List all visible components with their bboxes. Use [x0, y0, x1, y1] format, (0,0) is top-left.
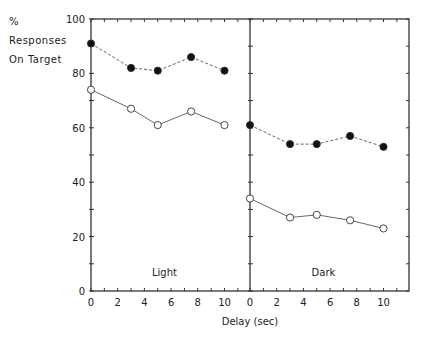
- x-tick-label: 0: [88, 297, 94, 308]
- filled-circle-marker: [347, 132, 354, 139]
- x-tick-label: 4: [141, 297, 147, 308]
- x-tick-label: 8: [354, 297, 360, 308]
- chart: 02040608010002468100246810Delay (sec)Lig…: [0, 0, 424, 339]
- open-circle-marker: [246, 195, 253, 202]
- y-tick-label: 100: [66, 14, 85, 25]
- y-tick-label: 60: [72, 123, 85, 134]
- filled-circle-marker: [221, 67, 228, 74]
- x-axis-label: Delay (sec): [222, 316, 279, 327]
- open-circle-marker: [154, 121, 161, 128]
- open-circle-marker: [127, 105, 134, 112]
- filled-circle-marker: [286, 141, 293, 148]
- filled-circle-marker: [188, 53, 195, 60]
- open-circle-marker: [221, 121, 228, 128]
- x-tick-label: 6: [168, 297, 174, 308]
- series-line-open: [91, 90, 225, 125]
- filled-circle-marker: [127, 64, 134, 71]
- panel-label-dark: Dark: [312, 267, 336, 278]
- panel-label-light: Light: [152, 267, 177, 278]
- filled-circle-marker: [87, 40, 94, 47]
- x-tick-label: 8: [195, 297, 201, 308]
- open-circle-marker: [87, 86, 94, 93]
- x-tick-label: 0: [247, 297, 253, 308]
- filled-circle-marker: [380, 143, 387, 150]
- open-circle-marker: [347, 217, 354, 224]
- filled-circle-marker: [313, 141, 320, 148]
- open-circle-marker: [286, 214, 293, 221]
- x-tick-label: 6: [327, 297, 333, 308]
- x-tick-label: 4: [300, 297, 306, 308]
- y-tick-label: 40: [72, 177, 85, 188]
- y-tick-label: 80: [72, 68, 85, 79]
- x-tick-label: 10: [218, 297, 231, 308]
- x-tick-label: 10: [377, 297, 390, 308]
- x-tick-label: 2: [274, 297, 280, 308]
- filled-circle-marker: [154, 67, 161, 74]
- series-line-filled: [91, 43, 225, 70]
- y-tick-label: 0: [79, 286, 85, 297]
- open-circle-marker: [188, 108, 195, 115]
- open-circle-marker: [313, 211, 320, 218]
- open-circle-marker: [380, 225, 387, 232]
- x-tick-label: 2: [115, 297, 121, 308]
- filled-circle-marker: [246, 121, 253, 128]
- y-tick-label: 20: [72, 232, 85, 243]
